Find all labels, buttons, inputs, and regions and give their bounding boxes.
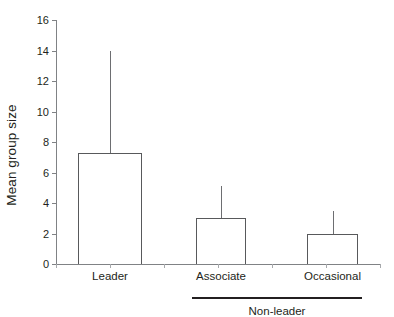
y-axis-tick-label: 8: [43, 136, 49, 148]
bar-occasional: [307, 234, 358, 265]
x-axis-label-associate: Associate: [196, 270, 246, 282]
bar-associate: [196, 218, 246, 264]
x-axis-tick-mark: [110, 264, 111, 268]
y-axis-line: [56, 20, 57, 265]
error-bar-leader: [110, 51, 111, 153]
y-axis-tick-label: 10: [37, 106, 49, 118]
non-leader-bracket-label: Non-leader: [249, 305, 306, 317]
error-bar-occasional: [333, 211, 334, 234]
x-axis-label-leader: Leader: [92, 270, 128, 282]
y-axis-tick-mark: [52, 203, 56, 204]
x-axis-tick-mark: [326, 264, 327, 268]
x-axis-label-occasional: Occasional: [304, 270, 361, 282]
y-axis-tick-label: 6: [43, 167, 49, 179]
y-axis-tick-mark: [52, 234, 56, 235]
y-axis-tick-label: 4: [43, 197, 49, 209]
y-axis-tick-label: 12: [37, 75, 49, 87]
y-axis-tick-mark: [52, 20, 56, 21]
x-axis-tick-mark: [272, 264, 273, 268]
plot-area: 0246810121416 LeaderAssociateOccasional …: [56, 20, 380, 264]
non-leader-bracket: [192, 297, 362, 299]
y-axis-tick-mark: [52, 81, 56, 82]
y-axis-tick-mark: [52, 173, 56, 174]
y-axis-tick-label: 0: [43, 258, 49, 270]
x-axis-tick-mark: [56, 264, 57, 268]
x-axis-tick-mark: [380, 264, 381, 268]
bar-leader: [78, 153, 142, 264]
x-axis-tick-mark: [164, 264, 165, 268]
x-axis-tick-mark: [218, 264, 219, 268]
y-axis-tick-mark: [52, 112, 56, 113]
y-axis-tick-mark: [52, 51, 56, 52]
y-axis-tick-mark: [52, 142, 56, 143]
y-axis-tick-label: 16: [37, 14, 49, 26]
y-axis-tick-label: 14: [37, 45, 49, 57]
error-bar-associate: [221, 186, 222, 218]
y-axis-tick-label: 2: [43, 228, 49, 240]
y-axis-title: Mean group size: [0, 0, 22, 310]
